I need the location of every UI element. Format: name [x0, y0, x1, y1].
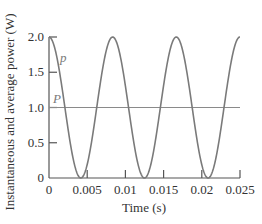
P-series-label: P — [52, 91, 61, 106]
y-tick-label: 0.5 — [28, 135, 44, 150]
y-tick-label: 1.5 — [28, 64, 44, 79]
x-tick-label: 0.005 — [73, 182, 102, 197]
y-tick-label: 1.0 — [28, 100, 44, 115]
p-series-label: p — [59, 50, 67, 65]
power-chart: 00.51.01.52.0 00.0050.010.0150.020.025 p… — [0, 0, 262, 224]
x-tick-label: 0 — [46, 182, 53, 197]
y-tick-labels: 00.51.01.52.0 — [28, 29, 44, 185]
x-tick-labels: 00.0050.010.0150.020.025 — [46, 182, 255, 197]
y-axis-label: Instantaneous and average power (W) — [2, 13, 17, 210]
x-tick-label: 0.015 — [149, 182, 178, 197]
x-axis-label: Time (s) — [122, 200, 166, 215]
y-tick-label: 2.0 — [28, 29, 44, 44]
y-tick-label: 0 — [38, 170, 45, 185]
x-tick-label: 0.01 — [114, 182, 137, 197]
x-tick-label: 0.02 — [190, 182, 213, 197]
x-ticks — [87, 170, 240, 178]
x-tick-label: 0.025 — [225, 182, 254, 197]
